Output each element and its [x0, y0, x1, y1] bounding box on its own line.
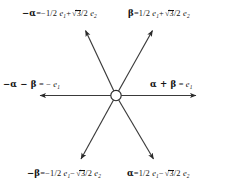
root-system-diagram: −α=−1/2 e1+√3/2 e2 β=1/2 e1+√3/2 e2 −α −…: [0, 0, 225, 192]
label-minus-alpha: −α=−1/2 e1+√3/2 e2: [22, 9, 97, 18]
label-minus-beta: −β=−1/2 e1−√3/2 e2: [27, 169, 101, 178]
sqrt-icon: √3: [164, 170, 174, 178]
label-minus-alpha-head: −α: [22, 8, 36, 18]
radical-bar-icon: [168, 170, 174, 171]
radical-bar-icon: [75, 10, 81, 11]
label-minus-alpha-coef2: /2: [81, 9, 88, 18]
label-minus-alpha-minus-beta: −α − β = − e1: [3, 80, 60, 89]
label-minus-alpha-minus-beta-sign: −: [46, 80, 51, 89]
arrow-beta: [116, 31, 153, 96]
radical-bar-icon: [168, 10, 174, 11]
label-alpha-head: α: [127, 168, 134, 178]
label-alpha-e1-sub: 1: [156, 173, 159, 179]
arrow-alpha: [116, 96, 154, 160]
vector-arrows-group: [0, 0, 225, 192]
label-alpha-coef2: /2: [174, 169, 181, 178]
label-beta-coef2: /2: [174, 9, 181, 18]
label-alpha-plus-beta-eq: =: [179, 80, 184, 89]
label-beta-e2-sub: 2: [187, 13, 190, 19]
label-beta-e1-sub: 1: [156, 13, 159, 19]
label-minus-beta-coef1: −1/2: [45, 169, 61, 178]
label-minus-beta-coef2: /2: [85, 169, 92, 178]
sqrt-icon: √3: [75, 170, 85, 178]
label-minus-alpha-e1-sub: 1: [63, 13, 66, 19]
sqrt-icon: √3: [71, 10, 81, 18]
label-minus-alpha-minus-beta-e1-sub: 1: [57, 84, 60, 90]
radical-bar-icon: [79, 170, 85, 171]
label-minus-alpha-coef1: −1/2: [41, 9, 57, 18]
label-alpha-plus-beta: α + β = e1: [150, 80, 193, 89]
label-alpha-plus-beta-e1-sub: 1: [190, 84, 193, 90]
label-beta-coef1: 1/2: [139, 9, 150, 18]
label-beta: β=1/2 e1+√3/2 e2: [128, 9, 190, 18]
label-alpha-coef1: 1/2: [139, 169, 150, 178]
label-minus-alpha-e2-sub: 2: [94, 13, 97, 19]
label-minus-alpha-minus-beta-head: −α − β: [3, 79, 37, 89]
label-minus-beta-e2-sub: 2: [98, 173, 101, 179]
label-minus-alpha-minus-beta-eq: =: [39, 80, 44, 89]
arrow-minus-beta: [81, 96, 116, 160]
label-minus-beta-head: −β: [27, 168, 40, 178]
label-minus-beta-e1-sub: 1: [67, 173, 70, 179]
origin-marker-icon: [111, 90, 121, 100]
sqrt-icon: √3: [164, 10, 174, 18]
arrow-minus-alpha: [86, 31, 117, 96]
label-alpha-plus-beta-head: α + β: [150, 79, 176, 89]
label-alpha: α=1/2 e1−√3/2 e2: [127, 169, 190, 178]
label-alpha-e2-sub: 2: [187, 173, 190, 179]
